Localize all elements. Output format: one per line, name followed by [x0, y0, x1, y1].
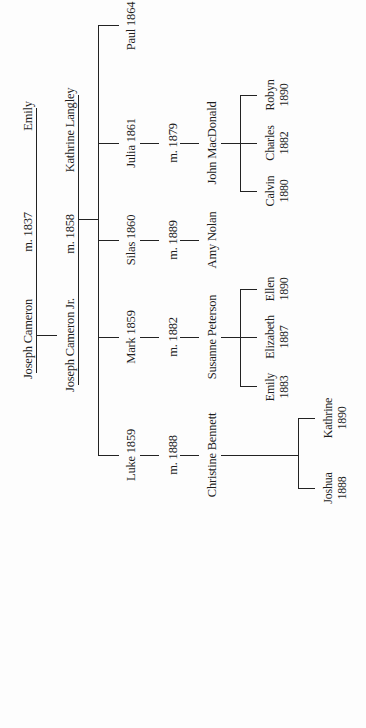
grandchild-elizabeth: Elizabeth1887	[263, 315, 291, 359]
grandchild-charles: Charles1882	[263, 125, 291, 160]
grandchild-year: 1890	[277, 83, 291, 106]
marriage-1888: m. 1888	[167, 435, 180, 475]
grandchild-ellen: Ellen1890	[263, 277, 291, 301]
grandchild-year: 1887	[277, 325, 291, 348]
grandchild-joshua: Joshua1888	[321, 472, 349, 503]
branch-emily	[240, 386, 257, 387]
descent-connector-julia	[221, 143, 257, 144]
grandchild-year: 1882	[277, 131, 291, 154]
person-julia: Julia 1861	[125, 118, 138, 168]
person-emily: Emily	[22, 101, 35, 131]
spouse-connector-julia	[180, 143, 199, 144]
grandchild-year: 1888	[335, 476, 349, 499]
grandchild-name: Charles	[263, 125, 277, 160]
grandchild-emily: Emily1883	[263, 373, 291, 401]
grandchild-year: 1890	[335, 406, 349, 429]
grandchild-name: Joshua	[321, 472, 335, 503]
marriage-connector-julia	[140, 143, 159, 144]
couple-line-gen2	[78, 95, 79, 385]
person-john-macdonald: John MacDonald	[206, 102, 219, 185]
marriage-1837: m. 1837	[22, 212, 35, 252]
grandchild-year: 1890	[277, 277, 291, 300]
grandchild-name: Ellen	[263, 277, 277, 301]
descent-connector-gen2	[78, 219, 98, 220]
grandchild-kathrine: Kathrine1890	[321, 398, 349, 438]
marriage-connector-silas	[140, 240, 159, 241]
spouse-connector-mark	[180, 337, 199, 338]
grandchild-name: Robyn	[263, 79, 277, 110]
person-susanne-peterson: Susanne Peterson	[206, 295, 219, 380]
branch-joshua	[298, 488, 315, 489]
grandchild-name: Elizabeth	[263, 315, 277, 359]
person-joseph-cameron-jr: Joseph Cameron Jr.	[64, 298, 77, 392]
grandchildren-bracket-luke	[298, 418, 299, 488]
marriage-connector-luke	[140, 455, 159, 456]
grandchild-calvin: Calvin1880	[263, 176, 291, 207]
grandchild-name: Calvin	[263, 176, 277, 207]
branch-kathrine	[298, 418, 315, 419]
person-kathrine-langley: Kathrine Langley	[64, 88, 77, 173]
person-paul: Paul 1864	[125, 2, 138, 51]
branch-silas	[98, 240, 119, 241]
person-amy-nolan: Amy Nolan	[206, 212, 219, 269]
grandchildren-bracket-julia	[240, 95, 241, 191]
branch-ellen	[240, 289, 257, 290]
grandchild-robyn: Robyn1890	[263, 79, 291, 110]
family-tree-diagram: Joseph Cameron m. 1837 Emily Joseph Came…	[0, 0, 366, 728]
person-christine-bennett: Christine Bennett	[206, 413, 219, 497]
branch-paul	[98, 25, 119, 26]
branch-luke	[98, 455, 119, 456]
person-silas: Silas 1860	[125, 215, 138, 265]
descent-connector-mark	[221, 337, 257, 338]
grandchild-name: Emily	[263, 373, 277, 401]
couple-line-gen1	[36, 108, 37, 373]
grandchild-name: Kathrine	[321, 398, 335, 438]
marriage-1879: m. 1879	[167, 123, 180, 163]
person-joseph-cameron: Joseph Cameron	[22, 299, 35, 379]
descent-connector-luke	[221, 455, 298, 456]
marriage-1882: m. 1882	[167, 317, 180, 357]
marriage-1889: m. 1889	[167, 220, 180, 260]
descent-connector-gen1	[36, 335, 57, 336]
spouse-connector-silas	[180, 240, 199, 241]
person-luke: Luke 1859	[125, 429, 138, 481]
branch-julia	[98, 143, 119, 144]
spouse-connector-luke	[180, 455, 199, 456]
branch-calvin	[240, 191, 257, 192]
branch-mark	[98, 337, 119, 338]
grandchild-year: 1883	[277, 375, 291, 398]
marriage-connector-mark	[140, 337, 159, 338]
grandchild-year: 1880	[277, 179, 291, 202]
branch-robyn	[240, 95, 257, 96]
person-mark: Mark 1859	[125, 310, 138, 363]
marriage-1858: m. 1858	[64, 214, 77, 254]
grandchildren-bracket-mark	[240, 289, 241, 386]
